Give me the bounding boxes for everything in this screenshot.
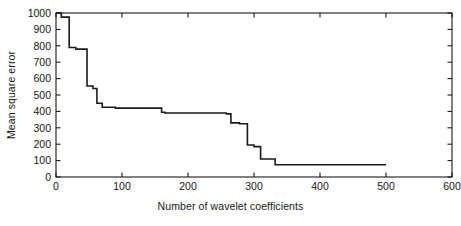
y-tick-label: 0 xyxy=(45,171,51,183)
series-line xyxy=(56,13,386,165)
y-tick-label: 500 xyxy=(33,89,51,101)
data-series xyxy=(56,13,386,165)
y-tick-labels: 01002003004005006007008009001000 xyxy=(28,7,52,183)
x-tick-labels: 0100200300400500600 xyxy=(53,180,461,192)
chart-figure: 0100200300400500600 01002003004005006007… xyxy=(0,0,461,226)
y-tick-label: 800 xyxy=(33,40,51,52)
y-tick-label: 1000 xyxy=(28,7,52,19)
axes-frame xyxy=(56,13,452,177)
y-axis-label: Mean square error xyxy=(5,51,17,139)
y-tick-label: 300 xyxy=(33,122,51,134)
y-tick-label: 600 xyxy=(33,72,51,84)
x-tick-label: 300 xyxy=(245,180,263,192)
x-tick-label: 500 xyxy=(377,180,395,192)
x-tick-label: 100 xyxy=(113,180,131,192)
x-tick-label: 600 xyxy=(443,180,461,192)
y-tick-label: 400 xyxy=(33,105,51,117)
y-tick-label: 100 xyxy=(33,154,51,166)
x-axis-label: Number of wavelet coefficients xyxy=(0,200,461,212)
y-axis-label-container: Mean square error xyxy=(0,0,22,190)
y-tick-label: 200 xyxy=(33,138,51,150)
x-tick-label: 0 xyxy=(53,180,59,192)
x-tick-label: 400 xyxy=(311,180,329,192)
y-tick-label: 700 xyxy=(33,56,51,68)
x-tick-marks xyxy=(56,13,452,177)
x-tick-label: 200 xyxy=(179,180,197,192)
chart-svg: 0100200300400500600 01002003004005006007… xyxy=(0,0,461,226)
y-tick-marks xyxy=(56,13,452,177)
y-tick-label: 900 xyxy=(33,23,51,35)
